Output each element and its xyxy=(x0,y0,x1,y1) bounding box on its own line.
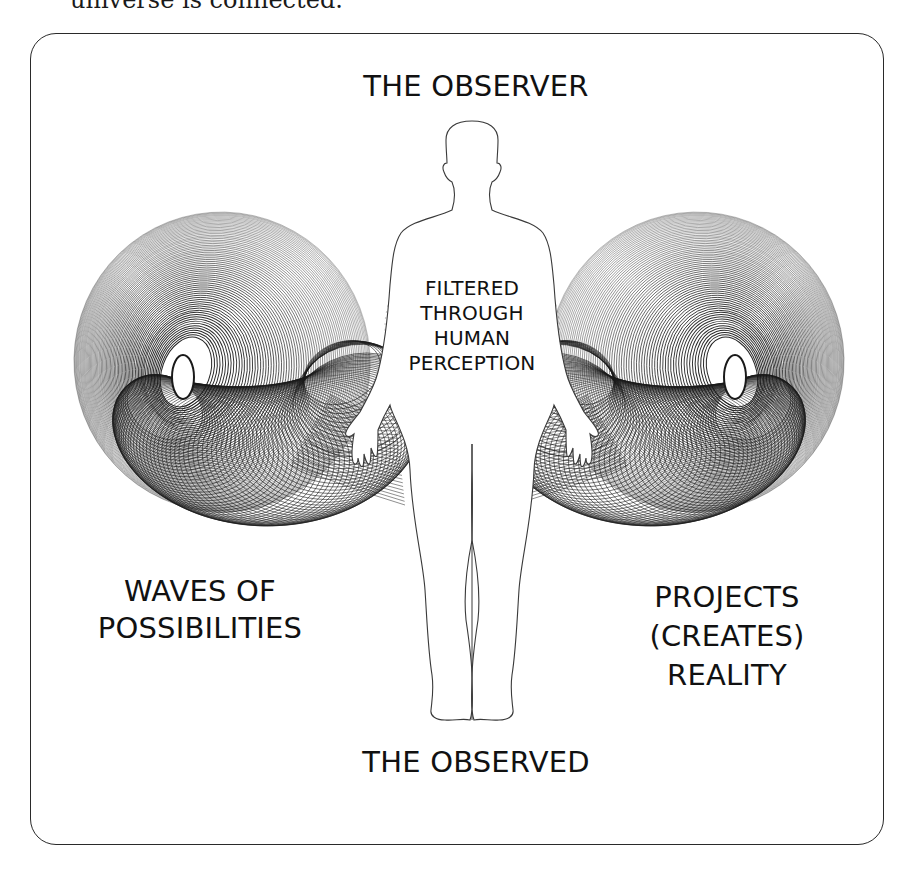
projects-label-line: (CREATES) xyxy=(587,617,867,656)
perception-label-line: HUMAN xyxy=(382,326,562,351)
projects-label: PROJECTS (CREATES) REALITY xyxy=(587,578,867,695)
waves-of-possibilities-spiral xyxy=(50,189,437,536)
perception-label-line: THROUGH xyxy=(382,301,562,326)
perception-label-line: FILTERED xyxy=(382,276,562,301)
projects-label-line: PROJECTS xyxy=(587,578,867,617)
observer-label: THE OBSERVER xyxy=(320,68,632,105)
projects-label-line: REALITY xyxy=(587,656,867,695)
observed-label: THE OBSERVED xyxy=(320,744,632,781)
perception-label-line: PERCEPTION xyxy=(382,351,562,376)
perception-label: FILTERED THROUGH HUMAN PERCEPTION xyxy=(382,276,562,376)
waves-label: WAVES OF POSSIBILITIES xyxy=(60,573,340,647)
waves-label-line: POSSIBILITIES xyxy=(60,610,340,647)
waves-label-line: WAVES OF xyxy=(60,573,340,610)
